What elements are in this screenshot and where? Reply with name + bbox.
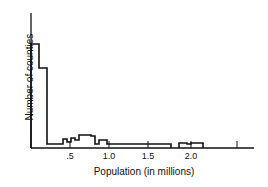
x-tick-label: 1.5 [142,151,155,161]
y-axis-label: Number of counties [24,51,35,121]
x-tick-label: .5 [66,151,74,161]
histogram-chart [0,0,268,187]
x-axis-label: Population (in millions) [0,166,268,177]
x-tick-label: 1.0 [103,151,116,161]
x-tick-label: 2.0 [185,151,198,161]
histogram-outline [31,44,203,148]
